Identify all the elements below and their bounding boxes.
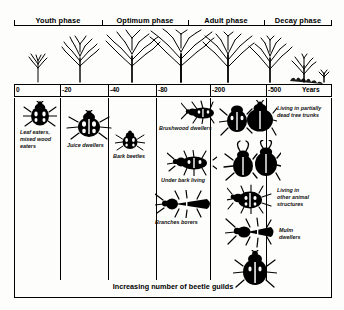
axis-tick [156,84,157,96]
click-beetle-icon [155,190,215,218]
guild-bark-beetles: Bark beetles [111,130,155,170]
large-dark-beetle-icon [219,100,277,140]
axis-line-bottom [14,96,332,97]
axis-label-0: 0 [16,86,20,93]
tree-young [62,36,99,82]
time-axis: 0 -20 -40 -80 -200 -500 Years [14,84,332,98]
tree-sapling [29,54,47,82]
axis-label-200: -200 [212,86,225,93]
phase-header: Youth phase Optimum phase Adult phase De… [14,10,332,26]
axis-line-top [14,84,332,85]
axis-tick [108,84,109,96]
guild-label-other-animal-structures: Living in other animal structures [277,187,333,207]
guild-juice-dwellers: Juice dwellers [63,110,113,160]
guild-label-bark-beetles: Bark beetles [113,153,157,160]
axis-label-20: -20 [62,86,72,93]
hairy-beetle-icon [227,184,273,214]
phase-label-optimum: Optimum phase [102,16,188,25]
tree-stump [319,70,329,82]
axis-tick [60,84,61,96]
tree-senescent [249,36,292,82]
guild-label-branches-borers: Branches borers [155,219,221,226]
long-antenna-beetle-icon [225,216,277,248]
axis-label-80: -80 [158,86,168,93]
guild-leaf-eaters: Leaf eaters, mixed wood eaters [15,98,61,158]
guild-label-partially-dead-trunks: Living in partially dead tree trunks [277,105,333,119]
tree-mature [150,29,214,82]
guild-label-leaf-eaters: Leaf eaters, mixed wood eaters [20,129,62,149]
guild-branches-borers: Branches borers [149,190,219,234]
axis-tick [14,84,15,96]
guild-label-juice-dwellers: Juice dwellers [67,142,117,149]
panel-divider [156,98,157,280]
stag-beetle-icon [223,140,281,184]
panel-bottom-caption: Increasing number of beetle guilds [15,282,331,291]
flat-beetle-icon [167,150,217,176]
phase-label-youth: Youth phase [14,16,102,25]
tree-decaying [292,54,316,82]
figure-canvas: Youth phase Optimum phase Adult phase De… [0,0,344,310]
phase-rule [14,25,332,26]
spotted-beetle-icon [66,110,112,140]
axis-unit-label: Years [302,86,320,93]
axis-label-40: -40 [110,86,120,93]
axis-tick [210,84,211,96]
axis-label-500: -500 [268,86,281,93]
phase-label-decay: Decay phase [264,16,332,25]
axis-tick [266,84,267,96]
tree-succession-band [14,28,332,84]
small-bark-beetle-icon [115,130,145,152]
ground-beetle-icon [23,101,57,128]
guild-under-bark-living: Under bark living [161,150,221,194]
guild-label-mulm-dwellers: Mulm dwellers [279,227,331,241]
axis-tick [331,84,332,96]
guild-stag-beetle-cluster [219,140,283,184]
guild-label-under-bark-living: Under bark living [161,177,221,184]
phase-label-adult: Adult phase [188,16,264,25]
tree-old [203,32,254,82]
beetle-guild-panel: Leaf eaters, mixed wood eaters [14,98,332,298]
guild-partially-dead-trunks: Living in partially dead tree trunks [215,98,333,144]
